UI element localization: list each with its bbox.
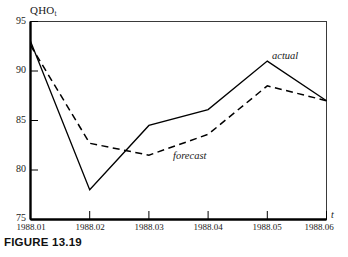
y-tick-label-80: 80 [4,163,26,174]
x-tick-label-1988-01: 1988.01 [4,222,58,232]
figure-container: QHOt t 95 90 85 80 75 1988.01 1988.02 19… [0,0,348,257]
y-axis-title-subscript: t [54,9,56,18]
y-tick-label-85: 85 [4,114,26,125]
x-tick-label-1988-04: 1988.04 [181,222,235,232]
y-tick-label-95: 95 [4,15,26,26]
y-tick-label-90: 90 [4,64,26,75]
figure-caption: FIGURE 13.19 [4,236,82,248]
series-annotation-actual: actual [272,50,298,61]
series-annotation-forecast: forecast [173,150,206,161]
x-tick-label-1988-06: 1988.06 [292,222,346,232]
x-tick-label-1988-05: 1988.05 [240,222,294,232]
y-axis-title-text: QHO [30,4,54,16]
x-tick-label-1988-03: 1988.03 [122,222,176,232]
x-axis-title: t [331,209,334,220]
chart-canvas [0,0,348,257]
x-tick-label-1988-02: 1988.02 [63,222,117,232]
y-axis-title: QHOt [30,4,57,16]
